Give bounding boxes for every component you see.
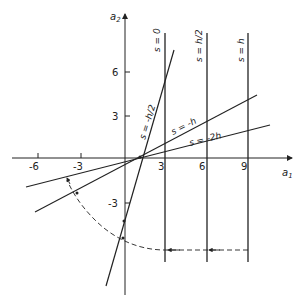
diagram: a1 a2 -6 -3 3 6 9 6 3 -3 s = 0 s = h/2 s…: [0, 0, 301, 301]
x-tick-label: 3: [158, 161, 164, 172]
x-tick-label: 9: [241, 161, 247, 172]
y-axis-label: a2: [110, 11, 121, 24]
point: [123, 220, 126, 223]
y-tick-label: 6: [112, 67, 118, 78]
y-tick-label: 3: [112, 111, 118, 122]
point: [122, 237, 125, 240]
point: [76, 192, 79, 195]
x-tick-label: -3: [73, 161, 83, 172]
x-ticks: [38, 153, 81, 158]
label-s-minus-2h: s = -2h: [188, 130, 222, 148]
y-ticks: [125, 72, 130, 203]
y-tick-label: -3: [108, 198, 118, 209]
label-s-minus-h-half: s = -h/2: [137, 103, 157, 140]
label-s-h-half: s = h/2: [194, 29, 204, 62]
label-s-0: s = 0: [152, 28, 162, 52]
x-tick-label: 6: [199, 161, 205, 172]
x-tick-label: -6: [29, 161, 39, 172]
label-s-h: s = h: [236, 38, 246, 62]
point: [139, 156, 142, 159]
x-axis-label: a1: [282, 167, 293, 180]
dashed-path: [67, 180, 248, 250]
